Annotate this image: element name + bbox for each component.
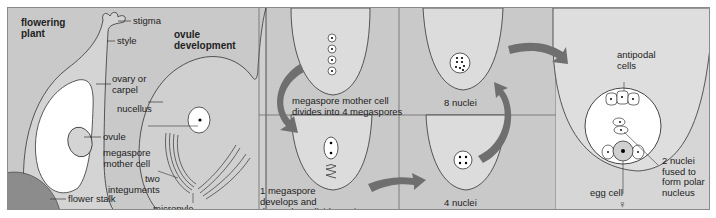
label-ovule: ovule (103, 132, 126, 143)
label-micropyle: micropyle (153, 204, 194, 210)
caption-line: the nucleus divides 3 times (260, 207, 374, 210)
label-line: carpel (112, 85, 146, 96)
label-line: mother cell (103, 159, 151, 170)
label-megaspore-mother-cell: megaspore mother cell (103, 148, 151, 169)
caption-step-1: megaspore mother cell divides into 4 meg… (292, 96, 402, 117)
eight-nuclei-drawing (423, 8, 503, 90)
label-flower-stalk: flower stalk (68, 194, 116, 205)
label-line: form polar (662, 177, 705, 188)
title-line: plant (21, 28, 65, 39)
label-stigma: stigma (133, 16, 161, 27)
label-nucellus: nucellus (117, 104, 152, 115)
label-line: megaspore (103, 148, 151, 159)
title-line: flowering (21, 17, 65, 28)
label-ovary-or-carpel: ovary or carpel (112, 74, 146, 95)
caption-line: 1 megaspore (260, 186, 374, 197)
label-polar-nucleus: 2 nuclei fused to form polar nucleus (662, 156, 705, 198)
title-line: development (174, 40, 236, 51)
label-line: antipodal (617, 50, 656, 61)
label-two-integuments: two integuments (108, 174, 160, 195)
label-line: two (108, 174, 160, 185)
label-line: 2 nuclei (662, 156, 705, 167)
caption-line: divides into 4 megaspores (292, 107, 402, 118)
label-egg-cell: egg cell (590, 188, 623, 199)
label-line: cells (617, 61, 656, 72)
flowering-plant-title: flowering plant (21, 17, 65, 39)
female-symbol-icon: ♀ (618, 199, 626, 210)
four-megaspores-drawing (291, 8, 370, 95)
title-line: ovule (174, 29, 236, 40)
caption-line: megaspore mother cell (292, 96, 402, 107)
label-line: ovary or (112, 74, 146, 85)
caption-step-2: 1 megaspore develops and the nucleus div… (260, 186, 374, 210)
diagram-frame: flowering plant stigma style ovary or ca… (7, 7, 710, 210)
one-megaspore-drawing (291, 115, 372, 190)
label-style: style (117, 36, 137, 47)
label-line: nucleus (662, 188, 705, 199)
label-antipodal-cells: antipodal cells (617, 50, 656, 71)
caption-4-nuclei: 4 nuclei (444, 198, 477, 209)
ovule-development-title: ovule development (174, 29, 236, 51)
caption-8-nuclei: 8 nuclei (444, 98, 477, 109)
